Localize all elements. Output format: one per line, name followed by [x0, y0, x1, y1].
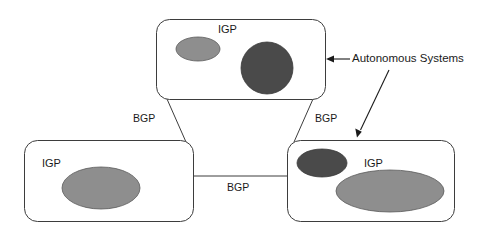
as-right-igp-label: IGP	[364, 158, 383, 169]
network-diagram: IGP IGP IGP BGP BGP BGP Autonomous Syste…	[0, 0, 479, 233]
as-top-network-circle	[241, 42, 293, 94]
as-left-igp-label: IGP	[42, 158, 61, 169]
as-top-network-ellipse	[176, 37, 220, 61]
as-right-network-ellipse-dark	[297, 149, 347, 177]
callout-arrowhead-left	[326, 56, 334, 63]
bgp-label-left-right: BGP	[227, 182, 249, 193]
callout-arrow-to-right-as	[355, 70, 389, 138]
as-top-igp-label: IGP	[218, 24, 237, 35]
as-right-network-ellipse-light	[336, 170, 444, 212]
callout-arrow-to-top-as	[326, 56, 350, 63]
bgp-line-top-left	[167, 99, 186, 142]
as-top-boundary	[157, 20, 326, 100]
as-left-network-ellipse	[62, 167, 140, 209]
bgp-label-top-left: BGP	[133, 113, 155, 124]
as-top-box[interactable]	[157, 20, 326, 100]
bgp-line-top-right	[294, 99, 313, 142]
autonomous-systems-callout-label: Autonomous Systems	[352, 53, 464, 65]
as-left-box[interactable]	[25, 141, 194, 222]
callout-leader-diagonal	[361, 70, 390, 130]
as-right-box[interactable]	[288, 141, 455, 222]
diagram-vector-layer	[0, 0, 479, 233]
bgp-label-top-right: BGP	[315, 113, 337, 124]
